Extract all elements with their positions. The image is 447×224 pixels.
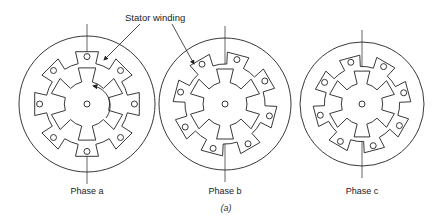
stator-winding-coil [118,68,124,74]
stator-winding-coil [51,135,57,141]
phase-c-label: Phase c [346,186,379,196]
stator-winding-coil [381,64,387,70]
callout-leader-a [104,24,140,60]
stator-winding-coil [317,112,323,118]
stator-winding-coil [401,90,407,96]
stator-winding-label: Stator winding [125,12,185,23]
phase-a-label: Phase a [70,186,103,196]
rotor-shaft [359,101,365,107]
stator-winding-coil [51,68,57,74]
stator-winding-coil [178,89,184,95]
stator-winding-coil [131,101,137,107]
stator-winding-coil [348,59,354,65]
stator-winding-coil [37,101,43,107]
stator-winding-coil [199,61,205,67]
callout-leader-b [172,24,194,64]
stator-winding-coil [182,124,188,130]
stator-winding-coil [245,141,251,147]
stator-winding-coil [84,148,90,154]
stator-winding-coil [262,78,268,84]
rotor-shaft [222,101,228,107]
figure-caption: (a) [221,203,232,213]
stator-winding-coil [234,57,240,63]
stator-winding-coil [370,143,376,149]
stator-winding-coil [322,79,328,85]
stator-winding-coil [396,123,402,129]
motor-phase-c [300,30,424,178]
stator-winding-coil [84,54,90,60]
motor-phase-a [19,24,155,184]
stator-winding-coil [210,145,216,151]
phase-b-label: Phase b [208,186,241,196]
motor-phase-b [159,26,291,182]
rotor-shaft [84,101,90,107]
stator-winding-coil [337,138,343,144]
stator-winding-coil [118,135,124,141]
stator-winding-coil [266,113,272,119]
